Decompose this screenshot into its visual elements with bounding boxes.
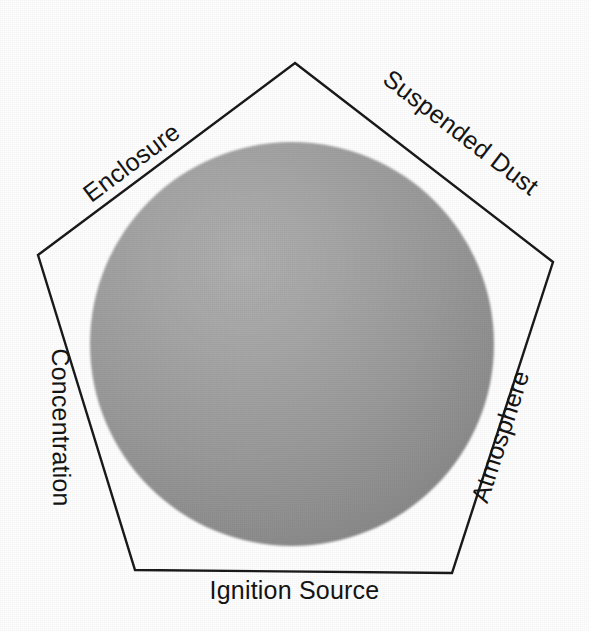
dust-explosion-pentagon-figure: Enclosure Suspended Dust Concentration A…	[0, 0, 589, 631]
pentagon-diagram-canvas	[0, 0, 589, 631]
edge-label-concentration: Concentration	[48, 348, 74, 506]
inner-circle-shape	[90, 142, 494, 546]
edge-label-ignition-source: Ignition Source	[0, 578, 589, 603]
